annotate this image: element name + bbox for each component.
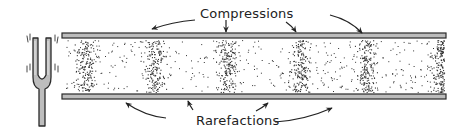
arrow-icon — [330, 15, 362, 33]
tube-top-wall — [62, 33, 446, 38]
arrow-icon — [256, 103, 268, 111]
arrow-icon — [126, 103, 166, 118]
tuning-fork-icon — [27, 34, 58, 126]
tube-bottom-wall — [62, 94, 446, 99]
wave-diagram: Compressions Rarefactions — [0, 0, 467, 135]
compressions-label: Compressions — [200, 6, 294, 21]
rarefactions-label: Rarefactions — [196, 113, 280, 128]
arrow-icon — [275, 108, 332, 122]
arrow-icon — [286, 22, 296, 32]
air-particles — [66, 40, 445, 93]
arrow-icon — [152, 20, 195, 29]
arrow-icon — [188, 101, 193, 110]
